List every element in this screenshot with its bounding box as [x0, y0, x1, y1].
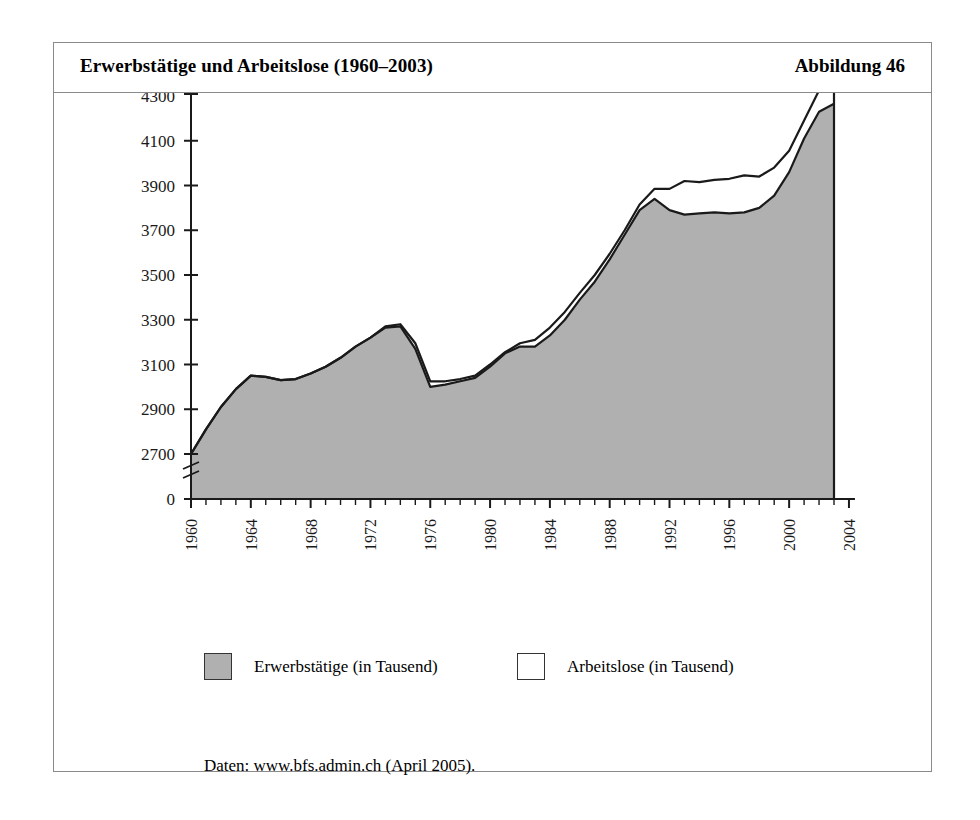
legend-swatch-arbeitslose: [517, 653, 545, 680]
legend-label-erwerbstaetige: Erwerbstätige (in Tausend): [254, 657, 438, 677]
y-tick-label: 3700: [141, 221, 175, 240]
page-title: Erwerbstätige und Arbeitslose (1960–2003…: [80, 55, 433, 77]
source-note: Daten: www.bfs.admin.ch (April 2005).: [204, 756, 475, 776]
y-tick-label: 3100: [141, 356, 175, 375]
x-tick-label: 1960: [183, 519, 200, 551]
y-tick-label: 3900: [141, 177, 175, 196]
y-tick-label: 0: [167, 490, 176, 509]
x-tick-label: 2004: [841, 519, 858, 551]
x-tick-label: 1996: [721, 519, 738, 551]
x-tick-label: 1964: [243, 519, 260, 551]
legend-item-erwerbstaetige[interactable]: Erwerbstätige (in Tausend): [204, 653, 438, 680]
figure-frame: Erwerbstätige und Arbeitslose (1960–2003…: [53, 42, 932, 772]
y-tick-label: 3500: [141, 266, 175, 285]
y-tick-label: 4100: [141, 132, 175, 151]
figure-root: Erwerbstätige und Arbeitslose (1960–2003…: [0, 0, 980, 820]
y-tick-label: 3300: [141, 311, 175, 330]
y-tick-label: 4300: [141, 93, 175, 106]
x-tick-label: 2000: [781, 519, 798, 551]
x-tick-label: 1976: [422, 519, 439, 551]
legend-label-arbeitslose: Arbeitslose (in Tausend): [567, 657, 734, 677]
x-tick-label: 1968: [303, 519, 320, 551]
figure-body: 0270029003100330035003700390041004300196…: [54, 93, 931, 771]
x-tick-label: 1992: [662, 519, 679, 551]
figure-number-label: Abbildung 46: [795, 55, 905, 77]
y-tick-label: 2900: [141, 400, 175, 419]
legend-item-arbeitslose[interactable]: Arbeitslose (in Tausend): [517, 653, 734, 680]
x-tick-label: 1988: [602, 519, 619, 551]
x-tick-label: 1972: [362, 519, 379, 551]
y-tick-label: 2700: [141, 445, 175, 464]
legend-swatch-erwerbstaetige: [204, 653, 232, 680]
x-tick-label: 1984: [542, 519, 559, 551]
area-chart: 0270029003100330035003700390041004300196…: [54, 93, 931, 693]
figure-header: Erwerbstätige und Arbeitslose (1960–2003…: [54, 43, 931, 93]
x-tick-label: 1980: [482, 519, 499, 551]
